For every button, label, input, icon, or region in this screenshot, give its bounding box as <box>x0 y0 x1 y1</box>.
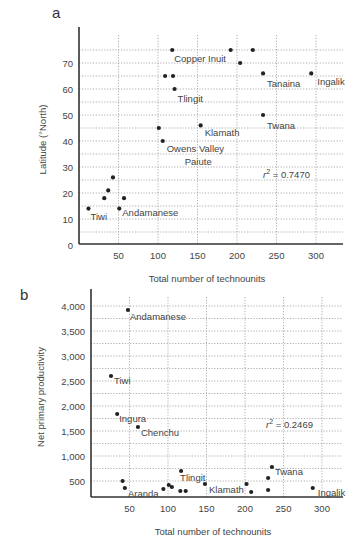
panel-a-point-label: Tanaina <box>267 78 301 89</box>
panel-a-y-tick-label: 20 <box>62 188 73 199</box>
panel-b-data-point <box>120 479 124 483</box>
panel-b-y-tick-label: 2,500 <box>61 376 85 387</box>
panel-a-data-point <box>238 61 242 65</box>
panel-a-data-point <box>117 207 121 211</box>
panel-b-data-point <box>170 485 174 489</box>
panel-b-data-point <box>184 489 188 493</box>
panel-b-y-axis-title: Net primary productivity <box>35 347 46 447</box>
panel-b-point-label: Tiwi <box>114 375 131 386</box>
panel-b-y-tick-label: 4,000 <box>61 301 85 312</box>
panel-b-point-label: Twana <box>275 466 304 477</box>
panel-a-x-tick-label: 250 <box>269 250 285 261</box>
panel-b-data-point <box>161 487 165 491</box>
panel-a-point-label: Ingalik <box>317 76 345 87</box>
panel-a-y-tick-label: 30 <box>62 162 73 173</box>
panel-b-data-point <box>109 374 113 378</box>
panel-a-x-axis-title: Total number of technounits <box>149 273 266 284</box>
panel-b-y-tick-label: 500 <box>69 476 85 487</box>
panel-b-letter: b <box>20 286 28 303</box>
panel-a-y-tick-label: 0 <box>68 240 73 251</box>
panel-b-x-tick-label: 150 <box>199 503 215 514</box>
panel-a-y-tick-label: 40 <box>62 136 73 147</box>
panel-b-x-tick-label: 250 <box>276 503 292 514</box>
panel-b-data-point <box>244 482 248 486</box>
panel-b-y-tick-label: 1,500 <box>61 426 85 437</box>
panel-a-data-point <box>170 48 174 52</box>
panel-a-data-point <box>161 139 165 143</box>
panel-b-x-tick-label: 200 <box>237 503 253 514</box>
panel-a-y-tick-label: 60 <box>62 84 73 95</box>
panel-a-point-label: Andamanese <box>122 207 178 218</box>
panel-a-point-label: Klamath <box>205 127 240 138</box>
panel-a-data-point <box>172 87 176 91</box>
panel-a-data-point <box>122 196 126 200</box>
panel-a-y-axis-title: Latitude (°North) <box>37 105 48 175</box>
panel-b-r-squared-annotation: r2 = 0.2469 <box>266 418 313 430</box>
panel-b-y-tick-label: 1,000 <box>61 451 85 462</box>
panel-b-point-label: Andamanese <box>130 311 186 322</box>
panel-b-point-label: Ingalik <box>318 487 346 498</box>
panel-a-data-point <box>251 48 255 52</box>
panel-b-data-point <box>266 476 270 480</box>
panel-b-x-tick-label: 50 <box>124 503 135 514</box>
panel-b-data-point <box>178 489 182 493</box>
panel-b-point-label: Chenchu <box>141 427 179 438</box>
panel-b-point-label: Ingura <box>119 413 147 424</box>
panel-a-data-point <box>229 48 233 52</box>
panel-a-x-tick-label: 200 <box>229 250 245 261</box>
panel-a-point-label: Twana <box>267 120 296 131</box>
panel-a-data-point <box>163 74 167 78</box>
panel-a-data-point <box>309 71 313 75</box>
panel-b-data-point <box>270 465 274 469</box>
panel-a-y-tick-label: 70 <box>62 58 73 69</box>
panel-a-data-point <box>199 123 203 127</box>
panel-b-point-label: Klamath <box>209 484 244 495</box>
panel-a-y-tick-label: 10 <box>62 214 73 225</box>
panel-b-data-point <box>203 482 207 486</box>
panel-a-data-point <box>261 113 265 117</box>
panel-b-y-tick-label: 3,000 <box>61 351 85 362</box>
figure: a01020304050607050100150200250300Total n… <box>0 0 363 537</box>
panel-a-x-tick-label: 100 <box>150 250 166 261</box>
panel-a-data-point <box>111 175 115 179</box>
panel-a-point-label: Copper Inuit <box>174 53 226 64</box>
panel-b-point-label: Tlingit <box>180 472 206 483</box>
panel-b-data-point <box>136 425 140 429</box>
panel-a-r-squared-annotation: r2 = 0.7470 <box>263 168 310 180</box>
panel-b-data-point <box>123 486 127 490</box>
panel-a-point-label: Paiute <box>185 156 212 167</box>
panel-b-data-point <box>266 488 270 492</box>
panel-a-point-label: Tlingit <box>178 93 204 104</box>
panel-b-point-label: Aranda <box>128 488 159 499</box>
panel-a-data-point <box>106 188 110 192</box>
panel-a-data-point <box>102 196 106 200</box>
panel-a-y-tick-label: 50 <box>62 110 73 121</box>
panel-b-x-tick-label: 100 <box>160 503 176 514</box>
panel-a-x-tick-label: 150 <box>190 250 206 261</box>
panel-b-x-axis-title: Total number of technounits <box>155 526 272 537</box>
panel-a-point-label: Owens Valley <box>167 143 225 154</box>
panel-a-data-point <box>261 71 265 75</box>
panel-a-data-point <box>171 74 175 78</box>
panel-b-y-tick-label: 3,500 <box>61 326 85 337</box>
panel-a-x-tick-label: 50 <box>113 250 124 261</box>
panel-a-point-label: Tiwi <box>90 211 107 222</box>
panel-b-data-point <box>249 490 253 494</box>
panel-b-data-point <box>311 486 315 490</box>
panel-b-y-tick-label: 2,000 <box>61 401 85 412</box>
panel-a-x-tick-label: 300 <box>308 250 324 261</box>
panel-b-x-tick-label: 300 <box>314 503 330 514</box>
panel-a-letter: a <box>52 4 61 21</box>
panel-a-data-point <box>157 126 161 130</box>
